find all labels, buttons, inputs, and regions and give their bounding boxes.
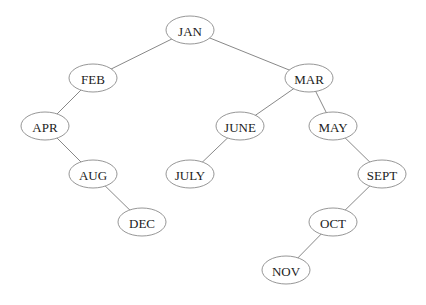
node-label: APR — [32, 120, 58, 135]
node-label: AUG — [79, 168, 107, 183]
node-feb: FEB — [69, 64, 117, 92]
nodes-layer: JANFEBMARAPRJUNEMAYAUGJULYSEPTDECOCTNOV — [21, 16, 406, 284]
node-label: FEB — [81, 72, 105, 87]
node-label: DEC — [129, 216, 155, 231]
node-jan: JAN — [166, 16, 214, 44]
node-dec: DEC — [118, 208, 166, 236]
node-sept: SEPT — [358, 160, 406, 188]
node-label: JAN — [178, 24, 202, 39]
node-label: JULY — [175, 168, 206, 183]
node-june: JUNE — [216, 112, 264, 140]
node-oct: OCT — [309, 208, 357, 236]
node-label: MAR — [294, 72, 324, 87]
binary-tree-diagram: JANFEBMARAPRJUNEMAYAUGJULYSEPTDECOCTNOV — [0, 0, 426, 305]
node-label: JUNE — [224, 120, 256, 135]
node-nov: NOV — [262, 256, 310, 284]
node-may: MAY — [309, 112, 357, 140]
node-label: MAY — [318, 120, 348, 135]
node-july: JULY — [166, 160, 214, 188]
node-label: NOV — [272, 264, 301, 279]
node-aug: AUG — [69, 160, 117, 188]
node-mar: MAR — [285, 64, 333, 92]
node-apr: APR — [21, 112, 69, 140]
node-label: SEPT — [367, 168, 397, 183]
node-label: OCT — [320, 216, 346, 231]
